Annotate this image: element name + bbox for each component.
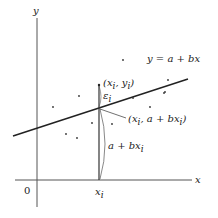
scatter-point [91,122,93,124]
highlighted-point [98,84,100,86]
origin-label: 0 [24,186,30,196]
scatter-point [52,106,54,108]
diagram-canvas [0,0,218,218]
x-axis-label: x [195,175,201,185]
fitted-height-label: a + bxi [108,141,144,154]
regression-line-label: y = a + bx [147,54,200,64]
regression-diagram: y x 0 xi y = a + bx (xi, yi) εi (xi, a +… [0,0,218,218]
residual-label: εi [103,91,111,104]
xi-tick-label: xi [95,187,104,200]
scatter-point [65,133,67,135]
fitted-point-leader [100,109,126,118]
scatter-point [167,79,169,81]
scatter-point [78,95,80,97]
scatter-point [132,97,134,99]
scatter-point [163,92,165,94]
scatter-point [76,137,78,139]
y-axis-label: y [33,6,39,16]
regression-line [13,79,188,136]
fitted-point-label: (xi, a + bxi) [128,114,186,127]
scatter-point [149,106,151,108]
scatter-point [122,59,124,61]
scatter-point [111,123,113,125]
fitted-height-bracket [100,109,105,179]
